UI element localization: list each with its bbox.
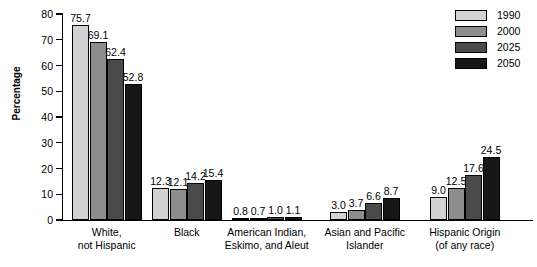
bar (72, 25, 89, 220)
bar (187, 183, 204, 220)
bar (383, 198, 400, 220)
bar (205, 180, 222, 220)
legend-swatch (455, 10, 487, 21)
bar (152, 188, 169, 220)
bar (330, 212, 347, 220)
bar-value-label: 24.5 (476, 145, 506, 156)
x-category-line: Hispanic Origin (395, 226, 535, 239)
bar-value-label: 69.1 (83, 30, 113, 41)
bar (90, 42, 107, 220)
x-axis-line (62, 220, 533, 221)
bar-value-label: 75.7 (66, 13, 96, 24)
y-tick-label: 30 (31, 138, 53, 149)
bar (365, 203, 382, 220)
legend-label: 2025 (497, 41, 520, 54)
y-tick-label: 0 (31, 215, 53, 226)
legend-label: 2000 (497, 25, 520, 38)
y-tick-label: 20 (31, 164, 53, 175)
bar (430, 197, 447, 220)
y-tick-label: 80 (31, 9, 53, 20)
bar-group: 3.03.76.68.7 (330, 14, 400, 220)
bar-value-label: 52.8 (118, 72, 148, 83)
bar (232, 218, 249, 220)
bar (250, 218, 267, 220)
bar (170, 189, 187, 220)
y-tick-label: 60 (31, 61, 53, 72)
y-tick-label: 70 (31, 35, 53, 46)
y-tick-label: 40 (31, 112, 53, 123)
x-category-line: not Hispanic (37, 239, 177, 252)
y-axis-title: Percentage (11, 34, 22, 154)
legend-swatch (455, 26, 487, 37)
bar (107, 59, 124, 220)
bar (448, 188, 465, 220)
x-category-line: (of any race) (395, 239, 535, 252)
bar-value-label: 62.4 (101, 47, 131, 58)
bar-group: 75.769.162.452.8 (72, 14, 142, 220)
bar-value-label: 15.4 (198, 168, 228, 179)
percentage-by-race-bar-chart: Percentage 01020304050607080 75.769.162.… (0, 0, 537, 267)
bar (267, 217, 284, 220)
legend-label: 1990 (497, 9, 520, 22)
bar (285, 217, 302, 220)
bar-value-label: 8.7 (376, 186, 406, 197)
bar-value-label: 1.1 (278, 205, 308, 216)
legend-swatch (455, 58, 487, 69)
bar (348, 210, 365, 220)
bar (465, 175, 482, 220)
x-category-label: Hispanic Origin(of any race) (395, 226, 535, 251)
bar (125, 84, 142, 220)
bar (483, 157, 500, 220)
bar-group: 12.312.114.215.4 (152, 14, 222, 220)
legend-label: 2050 (497, 57, 520, 70)
bar-group: 0.80.71.01.1 (232, 14, 302, 220)
legend-swatch (455, 42, 487, 53)
y-tick-label: 50 (31, 86, 53, 97)
y-tick-label: 10 (31, 189, 53, 200)
